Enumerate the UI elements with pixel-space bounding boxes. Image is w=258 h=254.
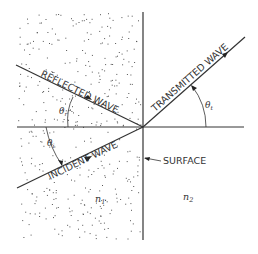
transmitted-wave-ray <box>143 37 245 127</box>
surface-label: SURFACE <box>163 155 206 166</box>
transmitted-wave-label: TRANSMITTED WAVE <box>148 41 230 114</box>
surface-pointer-arrow-icon <box>144 157 150 161</box>
theta-i-label: θi <box>47 138 54 149</box>
theta-r-label: θr <box>59 106 68 117</box>
reflection-refraction-diagram: REFLECTED WAVE INCIDENT WAVE TRANSMITTED… <box>0 0 258 254</box>
medium-n1-stipple <box>18 13 141 239</box>
theta-t-label: θt <box>205 100 213 111</box>
reflected-wave-label: REFLECTED WAVE <box>39 68 121 115</box>
medium-n2-label: n2 <box>183 191 193 204</box>
theta-t-arc <box>192 86 206 127</box>
theta-t-arrow-icon <box>191 85 197 91</box>
medium-n1-label: n1 <box>95 193 105 206</box>
incident-wave-label: INCIDENT WAVE <box>46 139 119 182</box>
